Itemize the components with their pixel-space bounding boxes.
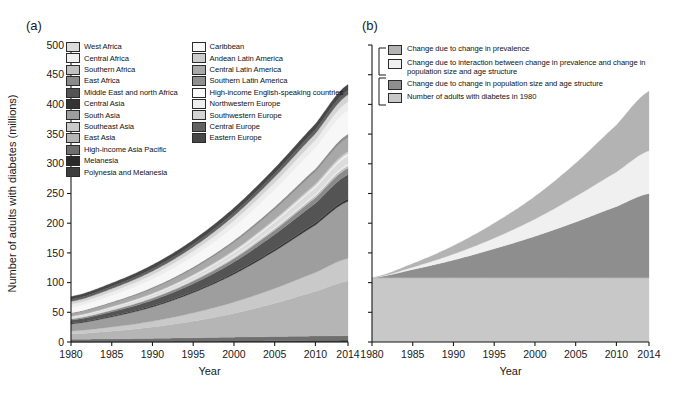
legend-item: Caribbean — [192, 42, 344, 52]
legend-label: Change due to interaction between change… — [407, 58, 655, 77]
legend-label: Middle East and north Africa — [84, 89, 178, 97]
legend-swatch — [388, 80, 402, 90]
legend-label: Eastern Europe — [210, 134, 262, 142]
x-tick-label: 2000 — [523, 348, 547, 360]
x-tick-label: 1980 — [360, 348, 384, 360]
legend-label: West Africa — [84, 43, 122, 51]
legend-label: Andean Latin America — [210, 55, 283, 63]
x-axis-title: Year — [499, 365, 522, 377]
legend-bracket — [376, 46, 388, 108]
y-tick-label: 50 — [52, 306, 64, 318]
legend-swatch — [192, 42, 206, 52]
legend-label: East Asia — [84, 134, 115, 142]
legend-swatch — [192, 53, 206, 63]
legend-item: Number of adults with diabetes in 1980 — [388, 92, 655, 103]
legend-item: Central Asia — [66, 99, 178, 109]
legend-item: Southern Africa — [66, 65, 178, 75]
legend-swatch — [66, 110, 80, 120]
panel-b-legend: Change due to change in prevalenceChange… — [388, 44, 655, 103]
legend-label: Melanesia — [84, 157, 118, 165]
x-tick-label: 2005 — [263, 348, 287, 360]
area-band — [372, 278, 649, 342]
legend-label: Southern Latin America — [210, 77, 288, 85]
legend-label: Central Asia — [84, 100, 124, 108]
x-tick-label: 1995 — [182, 348, 206, 360]
legend-item: Polynesia and Melanesia — [66, 167, 178, 177]
y-tick-label: 500 — [46, 39, 64, 51]
legend-swatch — [66, 167, 80, 177]
legend-column-1: West AfricaCentral AfricaSouthern Africa… — [66, 42, 178, 177]
legend-label: Southeast Asia — [84, 123, 134, 131]
legend-swatch — [66, 76, 80, 86]
legend-label: South Asia — [84, 112, 120, 120]
x-tick-label: 2005 — [564, 348, 588, 360]
legend-item: High-income English-speaking countries — [192, 88, 344, 98]
y-tick-label: 100 — [46, 276, 64, 288]
legend-label: Northwestern Europe — [210, 100, 281, 108]
legend-item: Central Europe — [192, 122, 344, 132]
legend-swatch — [388, 45, 402, 55]
x-tick-label: 2010 — [605, 348, 629, 360]
legend-swatch — [66, 53, 80, 63]
legend-swatch — [192, 122, 206, 132]
legend-swatch — [192, 99, 206, 109]
legend-label: East Africa — [84, 77, 120, 85]
legend-swatch — [192, 110, 206, 120]
legend-label: High-income Asia Pacific — [84, 146, 166, 154]
x-tick-label: 1985 — [401, 348, 425, 360]
legend-swatch — [66, 122, 80, 132]
y-axis-title: Number of adults with diabetes (millions… — [6, 94, 18, 292]
panel-a-legend: West AfricaCentral AfricaSouthern Africa… — [66, 42, 343, 177]
x-tick-label: 1985 — [100, 348, 124, 360]
legend-swatch — [192, 133, 206, 143]
y-tick-label: 200 — [46, 217, 64, 229]
legend-item: Change due to interaction between change… — [388, 58, 655, 77]
legend-swatch — [66, 42, 80, 52]
legend-label: Number of adults with diabetes in 1980 — [407, 92, 655, 101]
legend-item: East Asia — [66, 133, 178, 143]
legend-swatch — [192, 65, 206, 75]
legend-item: Change due to change in prevalence — [388, 44, 655, 55]
legend-label: Caribbean — [210, 43, 245, 51]
legend-swatch — [66, 145, 80, 155]
legend-swatch — [388, 93, 402, 103]
legend-label: Central Africa — [84, 55, 129, 63]
panel-a: (a) 050100150200250300350400450500198019… — [0, 0, 360, 402]
legend-label: Central Europe — [210, 123, 260, 131]
legend-item: West Africa — [66, 42, 178, 52]
x-axis-title: Year — [198, 365, 221, 377]
legend-label: High-income English-speaking countries — [210, 89, 344, 97]
y-tick-label: 0 — [58, 336, 64, 348]
x-tick-label: 2010 — [304, 348, 328, 360]
legend-swatch — [66, 99, 80, 109]
legend-label: Southwestern Europe — [210, 112, 282, 120]
legend-item: Melanesia — [66, 156, 178, 166]
legend-column-2: CaribbeanAndean Latin AmericaCentral Lat… — [192, 42, 344, 177]
legend-item: High-income Asia Pacific — [66, 145, 178, 155]
y-tick-label: 150 — [46, 247, 64, 259]
legend-label: Central Latin America — [210, 66, 282, 74]
legend-item: Middle East and north Africa — [66, 88, 178, 98]
x-tick-label: 2014 — [637, 348, 661, 360]
legend-swatch — [66, 88, 80, 98]
x-tick-label: 1990 — [442, 348, 466, 360]
x-tick-label: 1995 — [483, 348, 507, 360]
legend-swatch — [66, 133, 80, 143]
legend-item: South Asia — [66, 110, 178, 120]
y-tick-label: 400 — [46, 98, 64, 110]
legend-item: Central Africa — [66, 53, 178, 63]
y-tick-label: 250 — [46, 187, 64, 199]
legend-label: Southern Africa — [84, 66, 135, 74]
y-tick-label: 450 — [46, 68, 64, 80]
legend-item: Andean Latin America — [192, 53, 344, 63]
legend-item: Southern Latin America — [192, 76, 344, 86]
legend-item: Southwestern Europe — [192, 110, 344, 120]
legend-item: Northwestern Europe — [192, 99, 344, 109]
legend-swatch — [388, 59, 402, 69]
legend-swatch — [66, 156, 80, 166]
legend-item: Eastern Europe — [192, 133, 344, 143]
legend-label: Change due to change in population size … — [407, 79, 655, 88]
x-tick-label: 1980 — [59, 348, 83, 360]
legend-swatch — [192, 88, 206, 98]
x-tick-label: 1990 — [141, 348, 165, 360]
